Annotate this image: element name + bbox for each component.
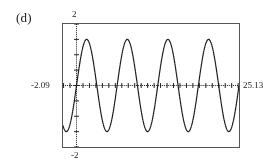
panel-label: (d) — [16, 11, 32, 24]
x-max-label: 25.13 — [243, 81, 263, 90]
x-min-label: -2.09 — [31, 81, 50, 90]
y-max-label: 2 — [72, 10, 77, 19]
figure-panel: (d) 2 -2 -2.09 25.13 — [0, 0, 275, 165]
plot-canvas — [63, 24, 239, 147]
calculator-screen-frame — [62, 23, 240, 148]
y-min-label: -2 — [71, 151, 79, 160]
